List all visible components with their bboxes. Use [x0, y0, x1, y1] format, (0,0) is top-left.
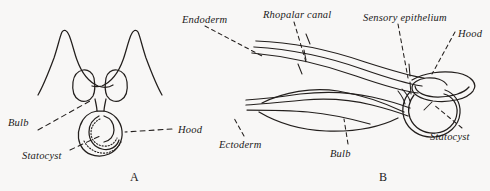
- panel-b-hood-loop: [412, 72, 475, 102]
- label-panel-b-statocyst: Statocyst: [430, 131, 470, 142]
- figure-linework: [0, 0, 490, 191]
- panel-b-upper-band: [252, 41, 424, 93]
- label-panel-a-bulb: Bulb: [8, 117, 29, 128]
- panel-a-leader-lines: [38, 101, 172, 150]
- label-panel-b-sensory-epithelium: Sensory epithelium: [363, 12, 447, 23]
- panel-b-lower-band: [246, 92, 410, 124]
- label-panel-b-ectoderm: Ectoderm: [219, 139, 261, 150]
- label-panel-a-statocyst: Statocyst: [22, 150, 62, 161]
- label-panel-a-hood: Hood: [178, 124, 202, 135]
- label-panel-b-rhopalar-canal: Rhopalar canal: [263, 9, 331, 20]
- label-panel-b-bulb: Bulb: [330, 148, 351, 159]
- label-panel-b-endoderm: Endoderm: [182, 14, 227, 25]
- label-panel-b-hood: Hood: [458, 28, 482, 39]
- panel-a-stalk: [95, 99, 106, 111]
- panel-caption-b: B: [379, 170, 387, 185]
- panel-a-bell-outline: [38, 30, 162, 95]
- panel-b-leader-lines: [205, 22, 462, 144]
- anatomical-figure: Bulb Statocyst Hood A Endoderm Rhopalar …: [0, 0, 490, 191]
- panel-a-bulb-lobes: [73, 70, 128, 102]
- panel-caption-a: A: [130, 170, 139, 185]
- panel-a-statocyst-inner: [89, 116, 119, 150]
